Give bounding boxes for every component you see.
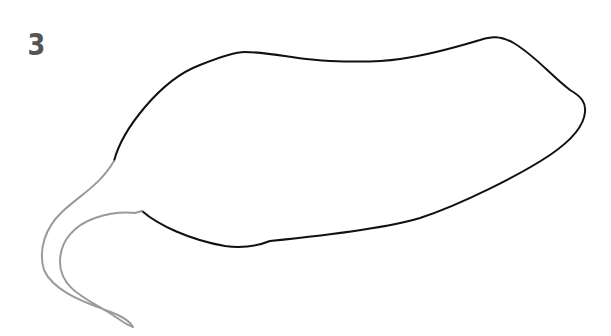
line-drawing — [0, 0, 611, 336]
body-outline — [114, 37, 585, 247]
tail-outline — [42, 161, 142, 327]
